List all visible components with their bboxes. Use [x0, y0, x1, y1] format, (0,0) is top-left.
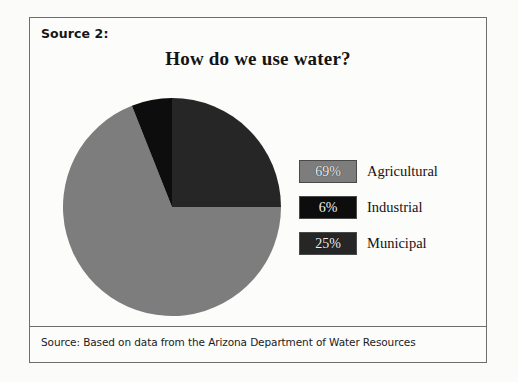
pie-chart-svg: [63, 95, 281, 319]
pie-chart: [63, 95, 281, 319]
legend-label-agricultural: Agricultural: [367, 163, 438, 180]
chart-region: Source 2: How do we use water? 69% Ag: [30, 18, 486, 327]
legend-value-industrial: 6%: [319, 201, 338, 215]
source-label: Source 2:: [41, 26, 109, 41]
legend-swatch-agricultural: 69%: [299, 160, 357, 183]
legend-swatch-municipal: 25%: [299, 232, 357, 255]
source-frame: Source 2: How do we use water? 69% Ag: [29, 17, 487, 363]
chart-title: How do we use water?: [30, 48, 486, 70]
legend-item-agricultural[interactable]: 69% Agricultural: [299, 160, 479, 183]
screenshot-canvas: Source 2: How do we use water? 69% Ag: [0, 0, 518, 382]
legend-item-municipal[interactable]: 25% Municipal: [299, 232, 479, 255]
legend-label-municipal: Municipal: [367, 235, 427, 252]
chart-legend: 69% Agricultural 6% Industrial 25% Munic…: [299, 160, 479, 255]
legend-item-industrial[interactable]: 6% Industrial: [299, 196, 479, 219]
legend-value-municipal: 25%: [315, 237, 341, 251]
pie-slices: [63, 98, 281, 316]
legend-label-industrial: Industrial: [367, 199, 423, 216]
pie-slice-municipal[interactable]: [172, 98, 281, 207]
source-footnote: Source: Based on data from the Arizona D…: [41, 336, 416, 348]
legend-value-agricultural: 69%: [315, 165, 341, 179]
legend-swatch-industrial: 6%: [299, 196, 357, 219]
